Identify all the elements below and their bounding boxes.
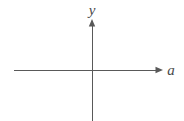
axes-canvas: y a <box>0 0 184 121</box>
vertical-axis-label: y <box>87 2 96 18</box>
horizontal-axis-label: a <box>167 62 175 78</box>
figure-root: y a <box>0 0 184 121</box>
horizontal-axis-arrowhead-icon <box>156 67 164 73</box>
vertical-axis-arrowhead-icon <box>89 19 95 27</box>
